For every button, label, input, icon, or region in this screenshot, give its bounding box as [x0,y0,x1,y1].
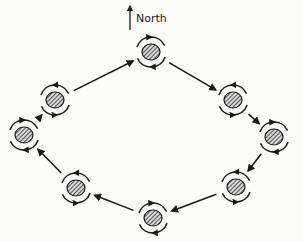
hatched-body-icon [15,127,33,143]
node-upper-right [219,85,247,115]
node-lower-right [222,172,250,202]
hatched-body-icon [265,129,283,145]
hatched-body-icon [46,92,64,108]
rotating-bodies-ring-diagram: North [0,0,302,242]
flow-arrow-icon [172,194,217,211]
rotating-nodes [10,37,288,233]
flow-arrow-icon [74,61,133,91]
hatched-body-icon [144,210,162,226]
flow-arrow-icon [38,149,61,173]
flow-arrow-icon [249,114,260,124]
node-left [10,120,38,150]
node-right [260,122,288,152]
flow-arrow-icon [248,154,261,171]
hatched-body-icon [224,92,242,108]
north-label: North [136,12,167,25]
node-bottom [139,203,167,233]
hatched-body-icon [227,179,245,195]
hatched-body-icon [67,180,85,196]
flow-arrow-icon [169,63,216,90]
flow-arrow-icon [95,195,134,210]
node-top [137,37,165,67]
flow-arrow-icon [38,115,42,119]
node-lower-left [62,173,90,203]
north-indicator: North [130,6,167,30]
hatched-body-icon [142,44,160,60]
node-upper-left [41,85,69,115]
